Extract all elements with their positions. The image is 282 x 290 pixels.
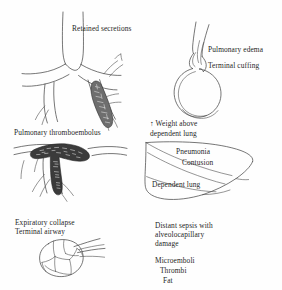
label-expiratory-collapse: Expiratory collapse — [15, 218, 75, 227]
label-contusion: Contusion — [182, 158, 213, 167]
label-retained-secretions: Retained secretions — [72, 24, 132, 33]
label-pulmonary-edema: Pulmonary edema — [208, 45, 263, 54]
label-distant-sepsis-line3: damage — [155, 239, 179, 248]
pulmonary-pathology-figure: Retained secretions Pulmonary edema Term… — [0, 0, 282, 290]
label-thrombi: Thrombi — [155, 266, 187, 275]
figure-linework — [0, 0, 282, 290]
label-microemboli: Microemboli — [155, 256, 195, 265]
label-pulmonary-thromboembolus: Pulmonary thromboembolus — [14, 128, 101, 137]
label-weight-above: ↑ Weight above — [150, 119, 197, 128]
label-pneumonia: Pneumonia — [176, 147, 210, 156]
alveolar-cluster-drawing — [40, 239, 105, 277]
label-dependent-lung-weight: dependent lung — [150, 129, 197, 138]
label-dependent-lung: Dependent lung — [152, 180, 200, 189]
label-terminal-airway: Terminal airway — [15, 227, 65, 236]
label-terminal-cuffing: Terminal cuffing — [208, 61, 259, 70]
label-distant-sepsis-line1: Distant sepsis with — [155, 221, 213, 230]
thromboembolus-drawing — [14, 144, 127, 202]
label-distant-sepsis-line2: alveolocapillary — [155, 230, 204, 239]
label-fat: Fat — [155, 276, 173, 285]
